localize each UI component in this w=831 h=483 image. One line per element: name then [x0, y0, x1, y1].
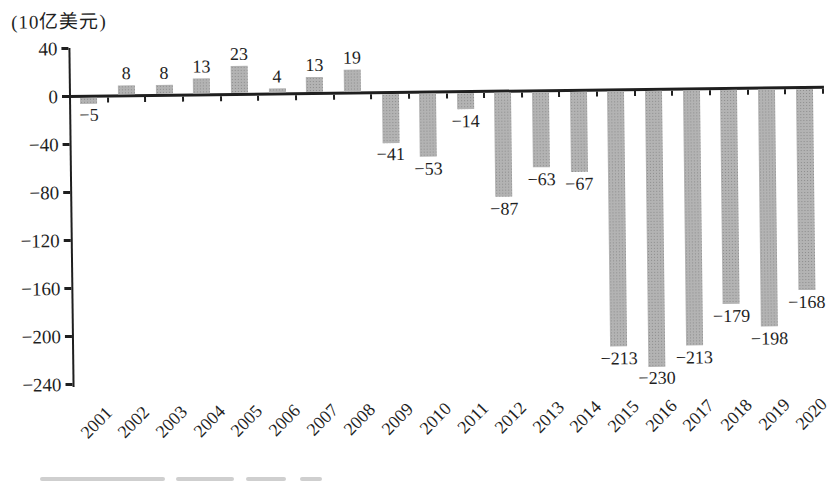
y-tick-mark [61, 47, 69, 49]
x-tick-mark [596, 91, 598, 97]
x-label-2011: 2011 [453, 398, 493, 438]
bars-layer: −588132341319−41−53−14−87−63−67−213−230−… [0, 0, 830, 1]
bar-2008 [344, 69, 361, 92]
x-tick-mark [370, 94, 372, 100]
y-tick-mark [62, 143, 70, 145]
x-tick-mark [220, 96, 222, 102]
y-tick-mark [64, 335, 72, 337]
x-label-2002: 2002 [114, 402, 154, 442]
x-tick-mark [445, 93, 447, 99]
x-label-2013: 2013 [528, 397, 568, 437]
bar-2003 [155, 84, 172, 94]
bar-value-label: −168 [775, 291, 831, 313]
x-tick-mark [483, 93, 485, 99]
y-tick-label: −80 [3, 181, 59, 206]
y-tick-mark [63, 239, 71, 241]
x-label-2001: 2001 [76, 403, 116, 443]
y-tick-mark [61, 95, 69, 97]
y-tick-mark [64, 287, 72, 289]
x-tick-mark [747, 89, 749, 95]
bar-value-label: 23 [207, 43, 271, 65]
y-axis-ticks: 400−40−80−120−160−200−240 [0, 0, 830, 1]
x-label-2015: 2015 [604, 396, 644, 436]
x-label-2018: 2018 [716, 395, 756, 435]
bar-2020 [796, 89, 815, 291]
x-tick-mark [257, 95, 259, 101]
bar-2007 [306, 77, 323, 93]
x-tick-mark [634, 91, 636, 97]
x-tick-mark [144, 97, 146, 103]
bar-value-label: −198 [737, 328, 801, 350]
bar-2013 [532, 92, 550, 168]
bar-value-label: −230 [625, 368, 689, 390]
x-label-2004: 2004 [189, 401, 229, 441]
y-axis-unit-label: (10亿美元) [11, 6, 107, 34]
bar-value-label: −67 [547, 173, 611, 195]
x-label-2020: 2020 [792, 394, 831, 434]
x-axis-ticks [0, 0, 830, 1]
bar-2011 [457, 93, 474, 110]
bar-value-label: −213 [662, 347, 726, 369]
bar-value-label: 19 [320, 47, 384, 69]
y-tick-mark [65, 383, 73, 385]
bar-2019 [758, 89, 778, 327]
x-label-2017: 2017 [679, 395, 719, 435]
bar-2006 [268, 88, 285, 93]
x-tick-mark [333, 94, 335, 100]
bar-2014 [570, 91, 588, 172]
y-tick-label: −200 [5, 325, 61, 350]
x-label-2016: 2016 [641, 396, 681, 436]
bar-2018 [720, 90, 740, 305]
x-label-2014: 2014 [566, 397, 606, 437]
bar-2004 [193, 78, 210, 94]
x-tick-mark [709, 90, 711, 96]
text-fragment-dash [300, 477, 322, 481]
x-label-2019: 2019 [754, 394, 794, 434]
text-fragment-dash [176, 477, 234, 481]
bar-value-label: −213 [587, 348, 651, 370]
x-tick-mark [107, 97, 109, 103]
x-axis-labels: 2001200220032004200520062007200820092010… [0, 0, 830, 1]
bar-2001 [80, 97, 97, 103]
chart-tilt-wrapper: (10亿美元) 400−40−80−120−160−200−240 −58813… [0, 0, 831, 483]
bar-value-label: −179 [699, 306, 763, 328]
bar-value-label: −87 [472, 198, 536, 220]
x-tick-mark [295, 95, 297, 101]
bar-2002 [118, 85, 135, 95]
bar-value-label: −14 [434, 111, 498, 133]
x-label-2009: 2009 [378, 399, 418, 439]
x-tick-mark [784, 89, 786, 95]
text-fragment-dash [246, 477, 286, 481]
x-label-2012: 2012 [491, 398, 531, 438]
y-tick-label: −120 [4, 229, 60, 254]
x-tick-mark [408, 94, 410, 100]
x-tick-mark [822, 88, 824, 94]
bar-2016 [645, 90, 665, 366]
x-label-2010: 2010 [415, 398, 455, 438]
y-tick-label: 40 [1, 37, 57, 62]
text-fragment-dash [40, 477, 165, 481]
bar-value-label: −53 [396, 158, 460, 180]
bar-2015 [607, 91, 627, 347]
y-tick-label: 0 [2, 85, 58, 110]
x-label-2006: 2006 [265, 400, 305, 440]
bar-chart: (10亿美元) 400−40−80−120−160−200−240 −58813… [0, 0, 831, 483]
y-tick-label: −160 [4, 277, 60, 302]
x-label-2003: 2003 [152, 402, 192, 442]
x-tick-mark [182, 96, 184, 102]
y-tick-mark [63, 191, 71, 193]
x-label-2008: 2008 [340, 399, 380, 439]
x-label-2007: 2007 [302, 400, 342, 440]
y-tick-label: −240 [5, 373, 61, 398]
x-tick-mark [521, 92, 523, 98]
x-tick-mark [671, 90, 673, 96]
x-tick-mark [558, 92, 560, 98]
x-label-2005: 2005 [227, 401, 267, 441]
bar-value-label: −5 [57, 105, 121, 127]
bar-2009 [382, 94, 400, 143]
y-tick-label: −40 [2, 133, 58, 158]
